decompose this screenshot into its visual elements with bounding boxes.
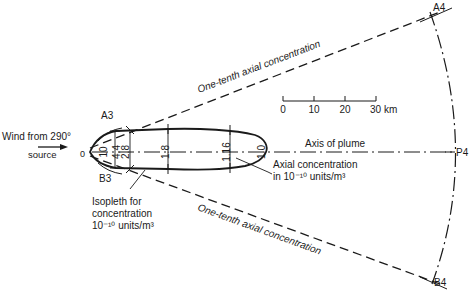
upper-boundary-label: One-tenth axial concentration [196,38,322,95]
isopleth-note-line3: 10⁻¹⁰ units/m³ [92,220,154,231]
scale-tick-10: 10 [308,104,320,115]
axial-value-6: 1.0 [256,145,267,159]
upper-boundary-line [90,12,440,148]
scale-tick-0: 0 [280,104,286,115]
point-p4-label: P4 [456,147,469,158]
scale-bar: 0 10 20 30 km [280,96,397,115]
axial-value-1: 10 [98,146,109,158]
axial-note-leader [236,158,268,172]
a3-arc [98,128,122,141]
axial-value-4: 1.8 [160,145,171,159]
isopleth-note-line1: Isopleth for [92,196,142,207]
point-b4-label: B4 [434,277,447,288]
lower-boundary-label: One-tenth axial concentration [196,202,323,257]
origin-label: 0 [80,149,85,159]
wind-label: Wind from 290° [2,131,71,142]
axis-of-plume-label: Axis of plume [305,138,365,149]
point-b3-label: B3 [99,173,112,184]
axial-note-line2: in 10⁻¹⁰ units/m³ [273,171,346,182]
isopleth-note-line2: concentration [92,208,152,219]
source-label: source [28,149,57,160]
point-a3-label: A3 [101,110,114,121]
plume-diagram: 10 4.4 2.8 1.8 1.16 1.0 Wind from 290° s… [0,0,474,299]
scale-tick-20: 20 [339,104,351,115]
scale-tick-30: 30 km [370,104,397,115]
axial-value-3: 2.8 [120,145,131,159]
outer-arc [430,12,456,284]
axial-value-5: 1.16 [221,142,232,162]
axial-note-leader-tail [268,172,272,174]
axial-note-line1: Axial concentration [273,159,358,170]
point-a4-label: A4 [433,2,446,13]
wind-arrow-head [60,144,68,150]
